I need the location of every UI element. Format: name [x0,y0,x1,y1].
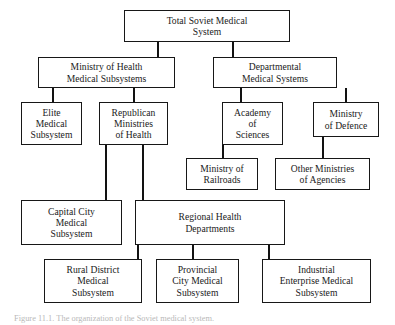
node-label-rural-district-medical-subsystem: Rural District Medical Subsystem [47,264,139,297]
node-label-ministry-of-railroads: Ministry of Railroads [189,163,255,185]
node-total-soviet-medical-system[interactable]: Total Soviet Medical System [124,10,290,42]
figure-caption: Figure 11.1. The organization of the Sov… [14,314,374,323]
connector-seg-dept-to-defence [345,88,347,102]
connector-seg-republican-to-reg [142,145,144,200]
connector-seg-reg-to-provincial [192,245,194,259]
node-label-industrial-enterprise-medical-subsystem: Industrial Enterprise Medical Subsystem [265,264,368,297]
node-label-departmental-medical-systems: Departmental Medical Systems [216,61,334,83]
connector-seg-academy-to-rail [222,145,224,158]
node-label-capital-city-medical-subsystem: Capital City Medical Subsystem [24,206,119,239]
node-label-republican-ministries-of-health: Republican Ministries of Health [102,107,165,140]
node-departmental-medical-systems[interactable]: Departmental Medical Systems [213,57,337,88]
node-industrial-enterprise-medical-subsystem[interactable]: Industrial Enterprise Medical Subsystem [262,259,371,303]
connector-seg-top-to-dept [232,42,234,57]
node-academy-of-sciences[interactable]: Academy of Sciences [222,102,283,145]
connector-seg-defence-to-other [322,137,324,158]
org-chart-diagram: Total Soviet Medical SystemMinistry of H… [0,0,395,325]
node-republican-ministries-of-health[interactable]: Republican Ministries of Health [99,102,168,145]
node-label-other-ministries-of-agencies: Other Ministries of Agencies [278,163,367,185]
node-elite-medical-subsystem[interactable]: Elite Medical Subsystem [21,102,82,145]
node-label-academy-of-sciences: Academy of Sciences [225,107,280,140]
node-provincial-city-medical-subsystem[interactable]: Provincial City Medical Subsystem [156,259,239,303]
connector-seg-reg-to-rural [137,245,139,259]
node-other-ministries-of-agencies[interactable]: Other Ministries of Agencies [275,158,370,190]
connector-seg-moh-to-republican [133,88,135,102]
node-ministry-of-railroads[interactable]: Ministry of Railroads [186,158,258,190]
node-ministry-of-defence[interactable]: Ministry of Defence [313,102,379,137]
node-label-provincial-city-medical-subsystem: Provincial City Medical Subsystem [159,264,236,297]
connector-seg-top-to-moh [157,42,159,57]
connector-seg-moh-to-elite [52,88,54,102]
connector-seg-republican-to-cap [105,145,107,200]
node-label-regional-health-departments: Regional Health Departments [138,211,282,233]
node-rural-district-medical-subsystem[interactable]: Rural District Medical Subsystem [44,259,142,303]
connector-seg-reg-to-industrial [268,245,270,259]
node-label-elite-medical-subsystem: Elite Medical Subsystem [24,107,79,140]
node-label-ministry-of-health-medical-subsystems: Ministry of Health Medical Subsystems [41,61,172,83]
node-capital-city-medical-subsystem[interactable]: Capital City Medical Subsystem [21,200,122,245]
node-label-total-soviet-medical-system: Total Soviet Medical System [127,15,287,37]
node-regional-health-departments[interactable]: Regional Health Departments [135,200,285,245]
connector-seg-dept-to-academy [240,88,242,102]
node-ministry-of-health-medical-subsystems[interactable]: Ministry of Health Medical Subsystems [38,57,175,88]
node-label-ministry-of-defence: Ministry of Defence [316,108,376,130]
